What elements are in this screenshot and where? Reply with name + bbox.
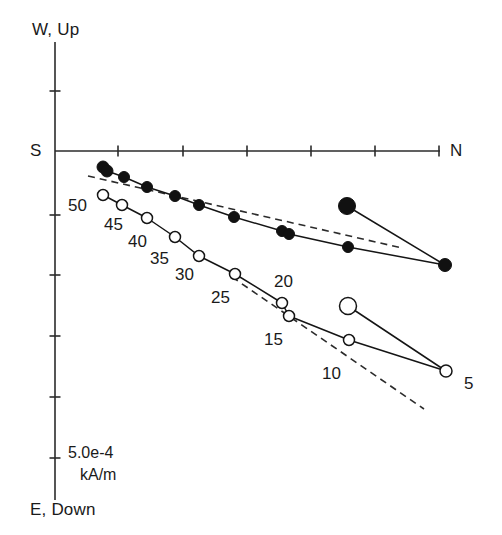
horizontal-projection-point-35[interactable]	[170, 191, 181, 202]
horizontal-projection-point-40[interactable]	[142, 182, 153, 193]
horizontal-projection-point-8[interactable]	[284, 229, 295, 240]
horizontal-projection-point-45[interactable]	[119, 172, 130, 183]
vertical-projection-point-40[interactable]	[142, 213, 153, 224]
axis-label-bottom: E, Down	[30, 500, 96, 520]
horizontal-projection-point-10[interactable]	[339, 198, 356, 215]
scale-bar-value: 5.0e-4	[68, 444, 113, 462]
demag-step-label-40: 40	[128, 232, 147, 252]
demag-step-label-35: 35	[150, 249, 169, 269]
axes-group	[50, 42, 441, 500]
vertical-projection-point-15[interactable]	[344, 335, 355, 346]
lower-fit-line	[232, 277, 424, 409]
demag-step-label-30: 30	[175, 265, 194, 285]
horizontal-projection-point-5[interactable]	[439, 259, 452, 272]
demag-step-label-50: 50	[68, 196, 87, 216]
demag-step-label-25: 25	[211, 288, 230, 308]
horizontal-projection-point-25[interactable]	[229, 212, 240, 223]
zijderveld-plot-figure: W, Up E, Down S N 5.0e-4 kA/m 5045403530…	[0, 0, 502, 535]
demag-step-label-15: 15	[264, 330, 283, 350]
vertical-projection-point-35[interactable]	[170, 232, 181, 243]
demag-step-label-45: 45	[104, 215, 123, 235]
axis-label-top: W, Up	[32, 20, 79, 40]
axis-label-left-south: S	[30, 141, 42, 161]
vertical-projection-point-50[interactable]	[98, 190, 109, 201]
vertical-projection-point-10[interactable]	[340, 298, 357, 315]
demag-step-label-20-b: 20	[274, 272, 293, 292]
horizontal-projection-point-1[interactable]	[101, 165, 113, 177]
vertical-projection-point-5[interactable]	[440, 365, 452, 377]
horizontal-projection-point-15[interactable]	[343, 242, 354, 253]
fit-lines-group	[88, 176, 424, 409]
horizontal-projection-point-30[interactable]	[194, 200, 205, 211]
vertical-projection-point-45[interactable]	[117, 200, 128, 211]
scale-bar-unit: kA/m	[80, 466, 116, 484]
demag-step-label-10: 10	[322, 364, 341, 384]
vertical-projection-point-25[interactable]	[230, 269, 241, 280]
axis-label-right-north: N	[450, 141, 462, 161]
vertical-projection-point-30[interactable]	[194, 251, 205, 262]
vertical-projection-point-20[interactable]	[277, 298, 288, 309]
demag-step-label-5: 5	[464, 374, 473, 394]
vertical-projection-point-7[interactable]	[284, 311, 295, 322]
